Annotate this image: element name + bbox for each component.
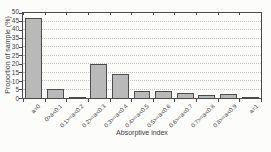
bar bbox=[69, 97, 86, 98]
gridline bbox=[23, 38, 261, 39]
bar bbox=[134, 91, 151, 98]
y-tick-label: 15 bbox=[0, 69, 19, 77]
bar bbox=[25, 18, 42, 98]
y-tick-label: 5 bbox=[0, 86, 19, 94]
x-top-tick-mark bbox=[110, 13, 111, 15]
x-top-tick-mark bbox=[174, 13, 175, 15]
y-tick-label: 50 bbox=[0, 8, 19, 16]
y-tick-label: 25 bbox=[0, 52, 19, 60]
gridline bbox=[23, 80, 261, 81]
x-top-tick-mark bbox=[261, 13, 262, 15]
bar bbox=[220, 94, 237, 98]
y-tick-label: 20 bbox=[0, 60, 19, 68]
x-tick-label: a=0 bbox=[30, 103, 41, 114]
bar bbox=[177, 93, 194, 98]
y-tick-mark bbox=[19, 38, 23, 39]
bar bbox=[90, 64, 107, 98]
y-tick-mark bbox=[19, 47, 23, 48]
y-tick-mark bbox=[19, 72, 23, 73]
gridline bbox=[23, 29, 261, 30]
x-tick-label: a=1 bbox=[248, 103, 259, 114]
gridline bbox=[23, 21, 261, 22]
bar bbox=[112, 74, 129, 98]
y-tick-mark bbox=[19, 30, 23, 31]
bar bbox=[155, 91, 172, 98]
x-top-tick-mark bbox=[239, 13, 240, 15]
y-tick-mark bbox=[19, 55, 23, 56]
y-tick-mark bbox=[19, 64, 23, 65]
x-top-tick-mark bbox=[218, 13, 219, 15]
y-tick-label: 10 bbox=[0, 78, 19, 86]
gridline bbox=[23, 72, 261, 73]
x-top-tick-mark bbox=[131, 13, 132, 15]
bar-chart-figure: Proportion of sample (%) 051015202530354… bbox=[0, 0, 271, 152]
gridline bbox=[23, 63, 261, 64]
y-tick-label: 40 bbox=[0, 25, 19, 33]
x-axis-tick-labels: a=00>a<0.10.1>=a<0.20.2>=a<0.30.3>=a<0.4… bbox=[22, 100, 262, 132]
x-top-tick-mark bbox=[23, 13, 24, 15]
bar bbox=[198, 95, 215, 98]
gridline bbox=[23, 55, 261, 56]
y-tick-label: 30 bbox=[0, 43, 19, 51]
x-tick-label: 0>a<0.1 bbox=[43, 103, 63, 123]
x-top-tick-mark bbox=[153, 13, 154, 15]
y-tick-mark bbox=[19, 89, 23, 90]
y-tick-label: 0 bbox=[0, 95, 19, 103]
bar bbox=[242, 97, 259, 98]
bar bbox=[47, 89, 64, 98]
x-top-tick-mark bbox=[66, 13, 67, 15]
y-tick-mark bbox=[19, 81, 23, 82]
y-axis-tick-labels: 05101520253035404550 bbox=[0, 12, 19, 99]
x-axis-title: Absorptive index bbox=[116, 129, 168, 136]
plot-area bbox=[22, 12, 262, 99]
y-tick-label: 45 bbox=[0, 17, 19, 25]
y-tick-mark bbox=[19, 21, 23, 22]
x-top-tick-mark bbox=[88, 13, 89, 15]
gridline bbox=[23, 46, 261, 47]
y-tick-label: 35 bbox=[0, 34, 19, 42]
x-top-tick-mark bbox=[196, 13, 197, 15]
x-top-tick-mark bbox=[45, 13, 46, 15]
